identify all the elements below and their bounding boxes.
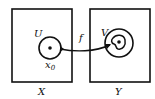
space-y-label: Y [115, 86, 123, 97]
image-point-dot [117, 40, 121, 44]
map-f-arrow-line [60, 45, 110, 51]
space-y: V Y [90, 9, 150, 97]
space-x-label: X [37, 86, 46, 97]
space-y-box [90, 9, 150, 82]
point-x0-label: x0 [45, 59, 56, 72]
mapping-diagram: U x0 X V Y f [0, 0, 155, 99]
point-x0-dot [48, 46, 52, 50]
map-f-arrow-tail [60, 46, 64, 52]
space-x: U x0 X [12, 9, 72, 97]
neighborhood-u-label: U [34, 28, 43, 39]
space-x-box [12, 9, 72, 82]
map-f-label: f [78, 32, 85, 43]
